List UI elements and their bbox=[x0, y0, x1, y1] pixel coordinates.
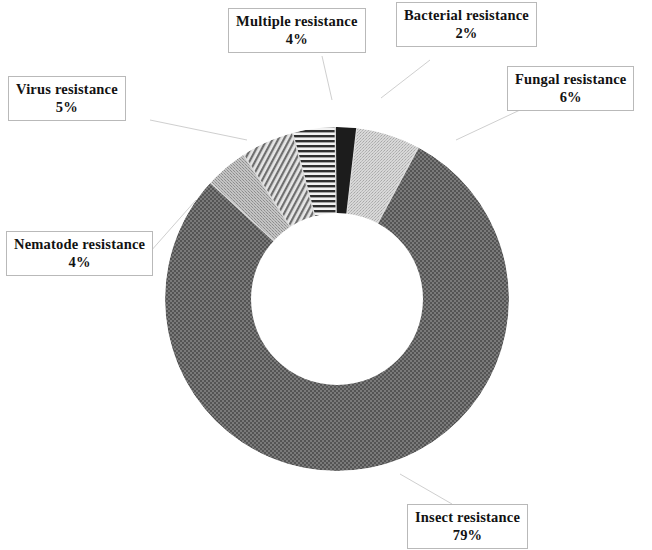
label-bacterial-resistance-name: Bacterial resistance bbox=[404, 6, 529, 24]
label-virus-resistance: Virus resistance 5% bbox=[8, 76, 126, 121]
donut-chart: Multiple resistance 4% Bacterial resista… bbox=[0, 0, 652, 550]
label-nematode-resistance: Nematode resistance 4% bbox=[6, 231, 153, 276]
label-multiple-resistance: Multiple resistance 4% bbox=[228, 8, 366, 53]
label-nematode-resistance-value: 4% bbox=[14, 253, 145, 271]
label-virus-resistance-name: Virus resistance bbox=[16, 80, 118, 98]
label-insect-resistance-value: 79% bbox=[415, 526, 520, 544]
label-multiple-resistance-value: 4% bbox=[236, 30, 358, 48]
label-bacterial-resistance-value: 2% bbox=[404, 24, 529, 42]
label-bacterial-resistance: Bacterial resistance 2% bbox=[396, 2, 537, 47]
label-insect-resistance: Insect resistance 79% bbox=[407, 504, 528, 549]
label-multiple-resistance-name: Multiple resistance bbox=[236, 12, 358, 30]
label-fungal-resistance-name: Fungal resistance bbox=[515, 70, 626, 88]
label-insect-resistance-name: Insect resistance bbox=[415, 508, 520, 526]
label-nematode-resistance-name: Nematode resistance bbox=[14, 235, 145, 253]
label-fungal-resistance-value: 6% bbox=[515, 88, 626, 106]
label-virus-resistance-value: 5% bbox=[16, 98, 118, 116]
label-fungal-resistance: Fungal resistance 6% bbox=[507, 66, 634, 111]
